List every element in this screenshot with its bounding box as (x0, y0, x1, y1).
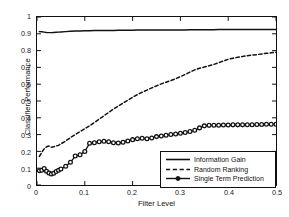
series-marker-2 (207, 123, 211, 127)
series-marker-2 (155, 135, 159, 139)
x-tick-label: 0.4 (214, 189, 244, 196)
series-marker-2 (260, 123, 264, 127)
series-marker-2 (69, 160, 73, 164)
series-marker-2 (169, 133, 173, 137)
series-marker-2 (92, 141, 96, 145)
x-tick-label: 0.3 (165, 189, 195, 196)
series-marker-2 (159, 134, 163, 138)
series-marker-2 (217, 123, 221, 127)
y-tick-label: 0.4 (5, 115, 31, 122)
series-marker-2 (222, 123, 226, 127)
series-marker-2 (269, 122, 273, 126)
series-marker-2 (131, 138, 135, 142)
series-line-1 (39, 52, 276, 156)
series-marker-2 (145, 137, 149, 141)
x-tick-label: 0.2 (117, 189, 147, 196)
series-marker-2 (83, 150, 87, 154)
series-marker-2 (73, 154, 77, 158)
series-marker-2 (202, 124, 206, 128)
series-marker-2 (250, 123, 254, 127)
legend-label: Random Ranking (194, 166, 248, 173)
series-marker-2 (112, 141, 116, 145)
legend-item-information-gain: Information Gain (165, 155, 272, 165)
series-marker-2 (255, 123, 259, 127)
series-marker-2 (64, 164, 68, 168)
series-marker-2 (126, 139, 130, 143)
series-marker-2 (140, 136, 144, 140)
x-tick-label: 0 (21, 189, 51, 196)
series-marker-2 (78, 153, 82, 157)
series-marker-2 (226, 123, 230, 127)
y-tick-label: 0.9 (5, 30, 31, 37)
series-marker-2 (245, 123, 249, 127)
series-marker-2 (174, 132, 178, 136)
y-tick-label: 0.5 (5, 98, 31, 105)
chart-figure: Classifier Performance 1 0.9 0.8 0.7 0.6… (0, 0, 289, 217)
series-marker-2 (265, 122, 269, 126)
series-marker-2 (164, 133, 168, 137)
legend-key-dashed-line-icon (165, 165, 191, 174)
series-marker-2 (179, 131, 183, 135)
series-marker-2 (121, 140, 125, 144)
series-marker-2 (102, 139, 106, 143)
x-tick-label: 0.1 (69, 189, 99, 196)
series-marker-2 (107, 140, 111, 144)
series-marker-2 (59, 167, 63, 171)
legend-key-marker-line-icon (165, 174, 191, 183)
y-tick-label: 0.7 (5, 64, 31, 71)
y-tick-label: 1 (5, 13, 31, 20)
x-tick-label: 0.5 (262, 189, 289, 196)
series-marker-2 (193, 128, 197, 132)
y-tick-label: 0.1 (5, 166, 31, 173)
y-tick-label: 0.6 (5, 81, 31, 88)
legend-label: Single Term Prediction (194, 175, 264, 182)
series-marker-2 (116, 141, 120, 145)
series-marker-2 (236, 123, 240, 127)
legend-key-solid-line-icon (165, 155, 191, 164)
x-axis-label: Filter Level (36, 200, 277, 208)
series-marker-2 (97, 140, 101, 144)
series-marker-2 (188, 130, 192, 134)
series-marker-2 (231, 123, 235, 127)
series-marker-2 (241, 123, 245, 127)
series-line-0 (39, 29, 276, 32)
series-marker-2 (135, 137, 139, 141)
series-marker-2 (212, 123, 216, 127)
y-tick-label: 0.2 (5, 149, 31, 156)
series-marker-2 (183, 131, 187, 135)
legend-label: Information Gain (194, 156, 246, 163)
series-marker-2 (150, 136, 154, 140)
legend-item-single-term-prediction: Single Term Prediction (165, 174, 272, 184)
chart-legend: Information Gain Random Ranking Single T… (160, 151, 276, 188)
y-tick-label: 0.8 (5, 47, 31, 54)
y-tick-label: 0.3 (5, 132, 31, 139)
series-marker-2 (88, 141, 92, 145)
series-marker-2 (198, 126, 202, 130)
series-marker-2 (274, 122, 276, 126)
legend-item-random-ranking: Random Ranking (165, 165, 272, 175)
